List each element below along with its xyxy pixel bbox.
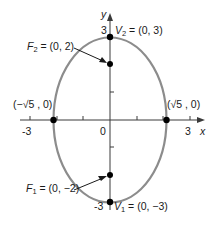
label-v1: V1 = (0, −3) [114, 200, 168, 214]
point-left-vertex [50, 117, 56, 123]
y-axis-label: y [100, 8, 107, 20]
point-f1 [107, 172, 113, 178]
x-axis-arrow-icon [197, 117, 205, 123]
x-axis [20, 116, 205, 123]
ellipse-diagram: y x -3 0 3 3 -3 V2 = (0, 3) F2 = (0, 2) … [0, 0, 218, 229]
point-v1 [107, 199, 113, 205]
label-f1: F1 = (0, −2) [26, 182, 79, 196]
y-tick-label-3: 3 [101, 24, 107, 36]
y-axis [107, 13, 114, 210]
y-axis-arrow-icon [107, 13, 113, 21]
point-right-vertex [163, 117, 169, 123]
x-tick-label-3: 3 [185, 125, 191, 137]
label-f2: F2 = (0, 2) [27, 40, 74, 54]
y-tick-label-neg3: -3 [94, 200, 103, 212]
arrow-to-f2 [74, 48, 107, 63]
point-v2 [107, 34, 113, 40]
label-left-vertex: (−√5 , 0) [13, 98, 52, 110]
label-v2: V2 = (0, 3) [115, 24, 163, 38]
point-f2 [107, 61, 113, 67]
x-tick-label-neg3: -3 [22, 125, 31, 137]
x-axis-label: x [199, 125, 206, 137]
x-tick-label-0: 0 [100, 125, 106, 137]
label-right-vertex: (√5 , 0) [167, 98, 200, 110]
